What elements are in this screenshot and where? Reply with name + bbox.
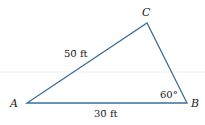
vertex-label-c: C <box>142 6 151 19</box>
angle-label-b: 60° <box>160 89 178 100</box>
vertex-label-a: A <box>9 97 18 110</box>
side-label-ab: 30̄ ft <box>94 108 118 119</box>
vertex-label-b: B <box>190 97 199 110</box>
triangle-diagram: C A B 50̄ ft 30̄ ft 60° <box>0 0 205 125</box>
side-label-ac: 50̄ ft <box>64 48 88 59</box>
